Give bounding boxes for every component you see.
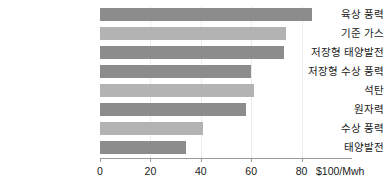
category-label: 저장형 수상 풍력	[287, 65, 384, 78]
x-tick-label: 80	[296, 165, 308, 177]
bar	[100, 65, 251, 78]
category-label: 수상 풍력	[287, 122, 384, 135]
x-tick-mark	[302, 158, 303, 162]
x-tick-label: 40	[195, 165, 207, 177]
bar	[100, 46, 284, 59]
category-label: 기준 가스	[287, 27, 384, 40]
x-tick-mark	[251, 158, 252, 162]
bar	[100, 122, 203, 135]
bar	[100, 141, 186, 154]
x-tick-mark	[201, 158, 202, 162]
x-axis-line	[100, 158, 352, 159]
x-tick-mark	[150, 158, 151, 162]
x-tick-label: 20	[145, 165, 157, 177]
category-label: 육상 풍력	[287, 8, 384, 21]
bar	[100, 103, 246, 116]
x-tick-label: 0	[97, 165, 103, 177]
bar	[100, 27, 286, 40]
category-label: 원자력	[287, 103, 384, 116]
bar	[100, 84, 254, 97]
category-label: 저장형 태양발전	[287, 46, 384, 59]
bar-chart: 육상 풍력기준 가스저장형 태양발전저장형 수상 풍력석탄원자력수상 풍력태양발…	[0, 0, 384, 192]
x-tick-label: 60	[245, 165, 257, 177]
x-tick-mark	[100, 158, 101, 162]
x-axis-unit-label: $100/Mwh	[316, 165, 364, 177]
category-label: 태양발전	[287, 141, 384, 154]
bar	[100, 8, 312, 21]
category-label: 석탄	[287, 84, 384, 97]
